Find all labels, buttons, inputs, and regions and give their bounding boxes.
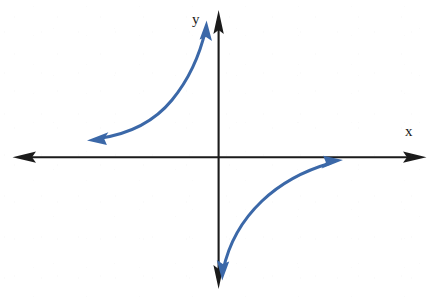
- graph-canvas: [0, 0, 433, 297]
- curve-branch-quadrant-iv: [223, 163, 330, 270]
- axes-group: [13, 10, 427, 289]
- hyperbola-figure: x y: [0, 0, 433, 297]
- x-axis-label: x: [405, 124, 413, 139]
- curve-branch-ii-upper-arrowhead: [200, 21, 212, 42]
- curve-branch-quadrant-ii: [100, 30, 206, 138]
- y-axis-label: y: [192, 12, 200, 27]
- hyperbola-curve-group: [87, 21, 343, 281]
